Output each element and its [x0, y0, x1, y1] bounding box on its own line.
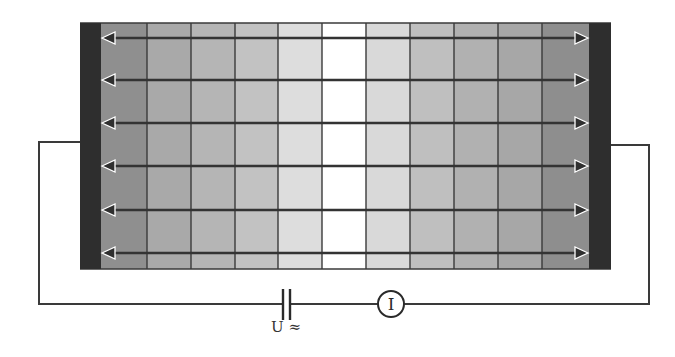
gel-column: [235, 23, 278, 269]
gel-column: [542, 23, 589, 269]
left-electrode: [80, 23, 101, 269]
ammeter-symbol: I: [388, 294, 395, 314]
gel-column: [101, 23, 147, 269]
gel-column: [147, 23, 191, 269]
right-electrode: [589, 23, 611, 269]
electrophoresis-diagram: I: [0, 0, 675, 357]
gel-column: [454, 23, 498, 269]
gel-column: [498, 23, 542, 269]
gel-column: [410, 23, 454, 269]
gel-column: [191, 23, 235, 269]
gel-column: [366, 23, 410, 269]
gel-column: [278, 23, 322, 269]
voltage-source-label: U ≈: [271, 318, 301, 336]
gel-column: [322, 23, 366, 269]
